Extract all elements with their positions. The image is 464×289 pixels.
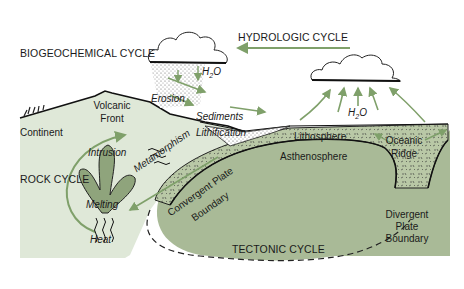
intrusion-label: Intrusion [88,148,126,158]
oceanic-ridge-label-1: Oceanic [384,136,424,146]
continent-label: Continent [20,128,63,138]
volcanic-front-label-1: Volcanic [92,101,132,111]
h2o-left-label: H2O [202,67,221,79]
h2o-right-label: H2O [348,108,367,120]
divergent-boundary-label-2: Plate [384,222,430,232]
cloud-left [148,32,227,63]
sediments-label: Sediments [196,112,243,122]
biogeochemical-cycle-label: BIOGEOCHEMICAL CYCLE [20,48,155,59]
asthenosphere-label: Asthenosphere [280,152,347,162]
rock-cycle-label: ROCK CYCLE [20,174,89,185]
melting-label: Melting [86,200,118,210]
divergent-boundary-label-3: Boundary [384,234,430,244]
heat-label: Heat [90,235,111,245]
lithosphere-label: Lithosphere [294,132,346,142]
hydrologic-cycle-label: HYDROLOGIC CYCLE [238,32,348,43]
cloud-right [311,55,401,81]
oceanic-ridge-label-2: Ridge [384,149,424,159]
divergent-boundary-label-1: Divergent [384,210,430,220]
erosion-label: Erosion [151,94,185,104]
lithification-label: Lithification [196,128,246,138]
volcanic-front-label-2: Front [92,114,132,124]
tectonic-cycle-label: TECTONIC CYCLE [232,244,325,255]
